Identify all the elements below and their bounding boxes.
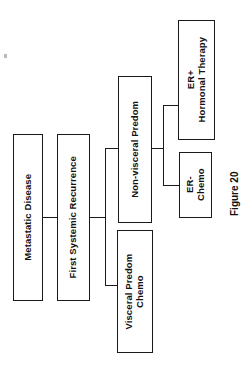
node-visceral-predom-chemo: Visceral Predom Chemo	[117, 230, 153, 353]
scan-artifact-speck	[4, 54, 7, 58]
figure-caption: Figure 20	[229, 172, 240, 216]
edge-metastatic-to-recurrence	[43, 217, 58, 218]
node-first-systemic-recurrence: First Systemic Recurrence	[57, 134, 90, 301]
edge-non-visceral-split-bus	[163, 105, 164, 186]
figure-canvas: Metastatic Disease First Systemic Recurr…	[0, 0, 246, 374]
edge-non-visceral-to-er-negative	[163, 185, 180, 186]
node-non-visceral-predom: Non-visceral Predom	[118, 76, 152, 223]
node-er-positive-hormonal-therapy-label: ER+ Hormonal Therapy	[186, 37, 207, 123]
node-er-positive-hormonal-therapy: ER+ Hormonal Therapy	[178, 20, 215, 140]
node-visceral-predom-chemo-label: Visceral Predom Chemo	[124, 254, 145, 330]
edge-recurrence-to-non-visceral	[105, 148, 119, 149]
edge-recurrence-trunk	[90, 217, 106, 218]
node-er-negative-chemo-label: ER- Chemo	[185, 169, 206, 202]
edge-recurrence-to-visceral	[105, 285, 118, 286]
edge-recurrence-split-bus	[105, 148, 106, 286]
node-metastatic-disease-label: Metastatic Disease	[23, 174, 34, 261]
node-first-systemic-recurrence-label: First Systemic Recurrence	[68, 156, 79, 278]
node-non-visceral-predom-label: Non-visceral Predom	[130, 101, 141, 198]
node-metastatic-disease: Metastatic Disease	[13, 134, 43, 301]
edge-non-visceral-to-er-positive	[163, 105, 179, 106]
node-er-negative-chemo: ER- Chemo	[179, 152, 212, 218]
